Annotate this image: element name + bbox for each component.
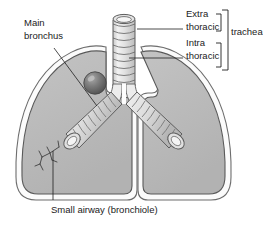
extra-thoracic-label-line1: Extra	[186, 8, 209, 19]
trachea-label: trachea	[231, 26, 263, 37]
nodule-sphere	[84, 72, 106, 94]
extra-thoracic-label-line2: thoracic	[186, 21, 220, 32]
intra-thoracic-label-line2: thoracic	[186, 50, 220, 61]
main-bronchus-label-line2: bronchus	[24, 30, 63, 41]
small-airway-label: Small airway (bronchiole)	[51, 204, 158, 215]
lung-anatomy-figure: Main bronchus Extra thoracic Intra thora…	[0, 0, 263, 227]
main-bronchus-label-line1: Main	[24, 17, 45, 28]
nodule	[84, 72, 106, 94]
intra-thoracic-label-line1: Intra	[186, 37, 206, 48]
trachea-lumen	[117, 17, 132, 23]
carina-midline	[122, 84, 126, 104]
lung-diagram-svg: Main bronchus Extra thoracic Intra thora…	[0, 0, 263, 227]
trachea	[113, 14, 135, 86]
